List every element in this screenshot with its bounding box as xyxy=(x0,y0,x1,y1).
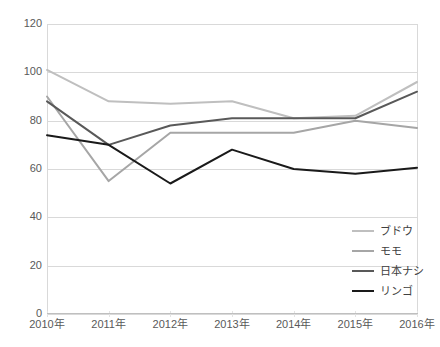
legend-label: モモ xyxy=(380,245,402,257)
legend-item[interactable]: ブドウ xyxy=(352,221,430,241)
legend-swatch-icon xyxy=(352,250,374,252)
y-axis-tick-label: 60 xyxy=(2,163,42,174)
x-axis-tick-label: 2011年 xyxy=(79,318,139,331)
y-axis-tick-label: 40 xyxy=(2,211,42,222)
x-axis-tick-label: 2014年 xyxy=(264,318,324,331)
y-axis-tick-label: 80 xyxy=(2,115,42,126)
series-line xyxy=(47,70,417,118)
series-line xyxy=(47,97,417,182)
legend-item[interactable]: 日本ナシ xyxy=(352,261,430,281)
legend-label: 日本ナシ xyxy=(380,265,424,277)
y-axis-labels: 020406080100120 xyxy=(0,24,42,314)
x-axis-tick-label: 2013年 xyxy=(202,318,262,331)
series-line xyxy=(47,135,417,183)
y-axis-tick-label: 120 xyxy=(2,18,42,29)
legend-swatch-icon xyxy=(352,270,374,272)
legend-item[interactable]: モモ xyxy=(352,241,430,261)
legend-item[interactable]: リンゴ xyxy=(352,281,430,301)
x-axis-tick-label: 2016年 xyxy=(387,318,440,331)
legend-label: リンゴ xyxy=(380,285,413,297)
x-axis-tick-label: 2015年 xyxy=(325,318,385,331)
chart-legend: ブドウモモ日本ナシリンゴ xyxy=(352,221,430,301)
x-axis-tick-label: 2010年 xyxy=(17,318,77,331)
x-axis-tick-label: 2012年 xyxy=(140,318,200,331)
legend-label: ブドウ xyxy=(380,225,413,237)
legend-swatch-icon xyxy=(352,290,374,292)
x-axis-labels: 2010年2011年2012年2013年2014年2015年2016年 xyxy=(47,318,418,338)
series-line xyxy=(47,92,417,145)
y-axis-tick-label: 100 xyxy=(2,66,42,77)
y-axis-tick-label: 20 xyxy=(2,260,42,271)
legend-swatch-icon xyxy=(352,230,374,232)
